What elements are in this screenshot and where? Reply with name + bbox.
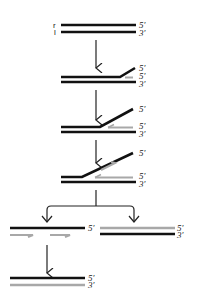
okazaki-fragment (50, 235, 70, 237)
step2-fork-opening: 5′ 5′ 3′ (61, 63, 147, 89)
strand-label-l: l (54, 28, 56, 37)
left-daughter-duplex: 5′ (10, 223, 96, 237)
step4-fork-extended: 5′ 5′ 3′ (61, 148, 147, 189)
three-prime-label: 3′ (87, 280, 96, 290)
top-strand (61, 68, 135, 77)
dna-replication-diagram: r l 5′ 3′ 5′ 5′ 3′ 5′ 5′ 3′ 5′ 5′ 3′ (0, 0, 198, 307)
five-prime-label: 5′ (88, 223, 96, 233)
three-prime-label: 3′ (138, 28, 147, 38)
five-prime-label: 5′ (139, 104, 147, 114)
step1-duplex: r l 5′ 3′ (53, 20, 147, 38)
three-prime-label: 3′ (138, 79, 147, 89)
right-daughter-duplex: 5′ 3′ (100, 223, 185, 240)
three-prime-label: 3′ (176, 230, 185, 240)
branch-arrows (42, 190, 139, 222)
three-prime-label: 3′ (138, 179, 147, 189)
three-prime-label: 3′ (138, 129, 147, 139)
final-duplex: 5′ 3′ (10, 273, 96, 290)
step3-fork-progressing: 5′ 5′ 3′ (61, 104, 147, 139)
five-prime-label: 5′ (139, 148, 147, 158)
top-strand (61, 153, 133, 177)
top-strand (61, 109, 133, 127)
okazaki-fragment (10, 235, 33, 237)
